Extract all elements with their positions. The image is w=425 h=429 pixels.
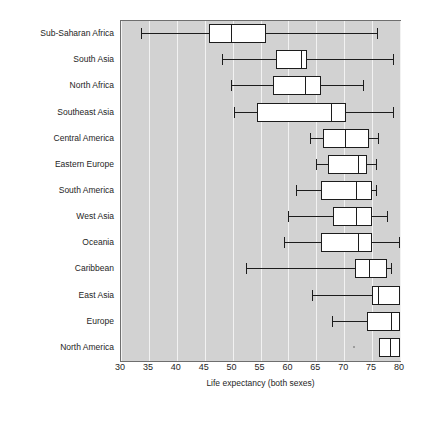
whisker-high-line (346, 112, 394, 113)
box-iqr (273, 76, 321, 95)
y-axis-label: Europe (0, 316, 114, 326)
median-line (356, 207, 357, 226)
y-axis-label: Sub-Saharan Africa (0, 28, 114, 38)
x-axis-tick-label: 60 (275, 362, 299, 373)
median-line (301, 50, 302, 69)
box-iqr (328, 155, 367, 174)
whisker-high-line (266, 33, 378, 34)
whisker-high-cap (391, 263, 392, 274)
whisker-low-cap (296, 185, 297, 196)
box-iqr (367, 312, 400, 331)
y-axis-label: Central America (0, 133, 114, 143)
whisker-low-line (312, 295, 372, 296)
outlier-point (353, 346, 355, 348)
whisker-low-cap (310, 133, 311, 144)
x-axis-title: Life expectancy (both sexes) (120, 378, 401, 388)
whisker-low-cap (231, 80, 232, 91)
box-row (121, 283, 400, 309)
whisker-low-cap (234, 107, 235, 118)
median-line (356, 181, 357, 200)
median-line (369, 259, 370, 278)
x-axis-tick-label: 35 (136, 362, 160, 373)
box-row (121, 152, 400, 178)
box-row (121, 204, 400, 230)
whisker-low-cap (141, 28, 142, 39)
whisker-low-line (222, 59, 276, 60)
whisker-low-line (316, 164, 328, 165)
y-axis-label: East Asia (0, 290, 114, 300)
whisker-high-cap (377, 28, 378, 39)
box-row (121, 73, 400, 99)
box-iqr (276, 50, 307, 69)
whisker-low-line (231, 85, 273, 86)
median-line (358, 155, 359, 174)
y-axis-label: South Asia (0, 54, 114, 64)
y-axis-label: West Asia (0, 211, 114, 221)
x-axis-tick-label: 65 (303, 362, 327, 373)
whisker-high-line (321, 85, 363, 86)
whisker-high-cap (376, 159, 377, 170)
whisker-high-cap (393, 107, 394, 118)
y-axis-label: Oceania (0, 237, 114, 247)
y-axis-label: South America (0, 185, 114, 195)
box-iqr (321, 233, 371, 252)
box-iqr (355, 259, 386, 278)
whisker-low-cap (222, 54, 223, 65)
median-line (378, 286, 379, 305)
median-line (358, 233, 359, 252)
whisker-low-line (296, 190, 321, 191)
x-axis-tick-label: 40 (164, 362, 188, 373)
whisker-low-cap (284, 237, 285, 248)
gridline-80 (400, 21, 401, 361)
whisker-high-cap (399, 237, 400, 248)
box-row (121, 100, 400, 126)
whisker-high-line (372, 242, 400, 243)
box-row (121, 309, 400, 335)
y-axis-label: Eastern Europe (0, 159, 114, 169)
y-axis-category-labels: Sub-Saharan AfricaSouth AsiaNorth Africa… (0, 20, 114, 360)
whisker-high-cap (376, 185, 377, 196)
box-iqr (321, 181, 371, 200)
box-iqr (257, 103, 346, 122)
whisker-low-line (288, 216, 333, 217)
y-axis-label: Caribbean (0, 263, 114, 273)
box-row (121, 335, 400, 361)
whisker-low-line (310, 138, 323, 139)
median-line (391, 312, 392, 331)
box-row (121, 230, 400, 256)
x-axis-tick-label: 70 (331, 362, 355, 373)
box-row (121, 47, 400, 73)
box-row (121, 178, 400, 204)
x-axis-tick-label: 45 (192, 362, 216, 373)
median-line (345, 129, 346, 148)
box-iqr (333, 207, 372, 226)
whisker-low-line (284, 242, 321, 243)
whisker-low-cap (332, 316, 333, 327)
whisker-low-line (332, 321, 367, 322)
median-line (331, 103, 332, 122)
y-axis-label: Southeast Asia (0, 107, 114, 117)
x-axis-tick-label: 80 (387, 362, 411, 373)
plot-area (120, 20, 401, 362)
median-line (231, 24, 232, 43)
whisker-low-line (141, 33, 209, 34)
whisker-high-cap (378, 133, 379, 144)
whisker-low-cap (316, 159, 317, 170)
x-axis-tick-label: 55 (248, 362, 272, 373)
median-line (305, 76, 306, 95)
y-axis-label: North Africa (0, 80, 114, 90)
box-row (121, 256, 400, 282)
whisker-low-cap (246, 263, 247, 274)
box-row (121, 21, 400, 47)
whisker-low-line (234, 112, 257, 113)
whisker-high-line (307, 59, 394, 60)
whisker-low-line (246, 268, 355, 269)
whisker-high-cap (387, 211, 388, 222)
box-iqr (372, 286, 400, 305)
box-iqr (209, 24, 266, 43)
x-axis-tick-label: 75 (359, 362, 383, 373)
whisker-low-cap (312, 290, 313, 301)
box-row (121, 126, 400, 152)
whisker-low-cap (288, 211, 289, 222)
whisker-high-line (372, 216, 388, 217)
